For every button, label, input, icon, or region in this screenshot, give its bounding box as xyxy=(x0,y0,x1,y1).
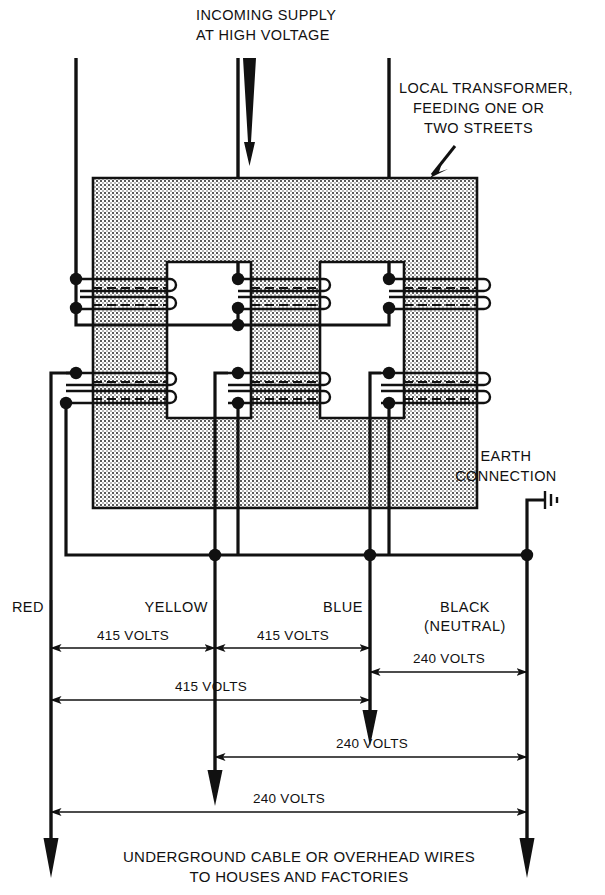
dot-bus-black xyxy=(521,549,533,561)
conductor-label-black: BLACK xyxy=(440,599,490,615)
dot-secondary-leg2-top xyxy=(232,367,244,379)
dot-primary-leg1-top xyxy=(70,273,82,285)
dimension-value-red-blue: 415 VOLTS xyxy=(175,679,247,694)
red-arrowhead-icon xyxy=(44,838,59,878)
conductor-label-red: RED xyxy=(12,599,44,615)
bottom-caption: UNDERGROUND CABLE OR OVERHEAD WIRES TO H… xyxy=(123,848,475,885)
dimension-yellow-black: 240 VOLTS xyxy=(215,736,527,757)
local-transformer-annotation: LOCAL TRANSFORMER, FEEDING ONE OR TWO ST… xyxy=(399,80,573,178)
dot-primary-leg3-top xyxy=(383,273,395,285)
dimension-red-blue: 415 VOLTS xyxy=(51,679,370,700)
caption-line-1: UNDERGROUND CABLE OR OVERHEAD WIRES xyxy=(123,848,475,865)
incoming-supply-annotation: INCOMING SUPPLY AT HIGH VOLTAGE xyxy=(196,7,336,43)
dot-secondary-leg2-bottom xyxy=(232,397,244,409)
dot-primary-leg2-bottom xyxy=(232,302,244,314)
local-transformer-arrowhead-icon xyxy=(430,160,448,178)
dot-bus-blue xyxy=(364,549,376,561)
dimension-yellow-blue: 415 VOLTS xyxy=(215,628,370,648)
dot-bus-yellow xyxy=(209,549,221,561)
earth-label-line-2: CONNECTION xyxy=(455,468,556,484)
local-transformer-line-2: FEEDING ONE OR xyxy=(413,100,544,116)
dimension-value-blue-black: 240 VOLTS xyxy=(413,651,485,666)
dot-primary-leg3-bottom xyxy=(383,302,395,314)
earth-lead xyxy=(527,500,545,555)
dot-primary-leg2-delta xyxy=(232,319,244,331)
dimension-value-yellow-blue: 415 VOLTS xyxy=(257,628,329,643)
conductor-sublabel-black: (NEUTRAL) xyxy=(424,618,506,634)
caption-line-2: TO HOUSES AND FACTORIES xyxy=(190,868,409,885)
yellow-arrowhead-icon xyxy=(208,770,223,806)
dot-primary-leg1-bottom xyxy=(70,302,82,314)
dot-secondary-leg1-bottom xyxy=(60,397,72,409)
conductor-label-blue: BLUE xyxy=(323,599,363,615)
supply-down-arrow-icon xyxy=(243,58,256,166)
dimension-value-yellow-black: 240 VOLTS xyxy=(336,736,408,751)
conductor-label-yellow: YELLOW xyxy=(145,599,208,615)
dot-secondary-leg1-top xyxy=(70,367,82,379)
incoming-supply-line-2: AT HIGH VOLTAGE xyxy=(196,27,330,43)
transformer-core xyxy=(93,178,477,508)
dimension-value-red-black: 240 VOLTS xyxy=(253,791,325,806)
dimension-red-yellow: 415 VOLTS xyxy=(51,628,215,648)
dimension-value-red-yellow: 415 VOLTS xyxy=(97,628,169,643)
earth-ground-icon xyxy=(545,491,557,509)
dot-secondary-leg3-bottom xyxy=(383,397,395,409)
earth-label-line-1: EARTH xyxy=(481,448,532,464)
dot-primary-leg2-top xyxy=(232,273,244,285)
transformer-schematic: INCOMING SUPPLY AT HIGH VOLTAGE LOCAL TR… xyxy=(0,0,605,895)
dimension-red-black: 240 VOLTS xyxy=(51,791,527,812)
dot-secondary-leg3-top xyxy=(383,367,395,379)
local-transformer-line-1: LOCAL TRANSFORMER, xyxy=(399,80,573,96)
incoming-supply-line-1: INCOMING SUPPLY xyxy=(196,7,336,23)
dimension-blue-black: 240 VOLTS xyxy=(370,651,527,672)
black-arrowhead-icon xyxy=(520,838,535,878)
voltage-dimensions: 415 VOLTS 415 VOLTS 240 VOLTS 415 VOLTS … xyxy=(51,628,527,812)
diagram-canvas: INCOMING SUPPLY AT HIGH VOLTAGE LOCAL TR… xyxy=(0,0,605,895)
core-laminations xyxy=(93,178,477,508)
local-transformer-line-3: TWO STREETS xyxy=(424,120,533,136)
